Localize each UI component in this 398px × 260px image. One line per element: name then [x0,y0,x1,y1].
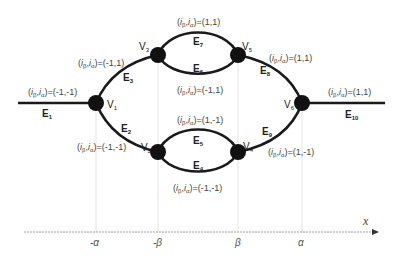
edge-label-E4: E4 [193,161,203,172]
edge-label-E7: E7 [193,37,203,48]
vertex-label-V6: V6 [284,100,294,111]
vertex-label-V3: V3 [139,42,149,53]
state-label-E9: (iβ,iα)=(1,-1) [268,148,314,158]
edge-label-E5: E5 [193,136,203,147]
edge-label-E1: E1 [42,109,52,120]
vertex-V1 [88,95,104,111]
vertex-label-V5: V5 [242,42,252,53]
tick-alpha: α [298,238,304,248]
state-label-E4: (iβ,iα)=(-1,-1) [173,184,222,194]
edge-label-E9: E9 [262,127,272,138]
x-axis-label: x [363,214,368,229]
state-label-E5: (iβ,iα)=(1,-1) [177,116,223,126]
vertex-label-V4: V4 [243,142,253,153]
state-label-E2: (iβ,iα)=(-1,-1) [77,143,126,153]
state-label-E3: (iβ,iα)=(-1,1) [78,59,124,69]
x-axis-arrow-icon [372,229,379,235]
state-label-E8: (iβ,iα)=(1,1) [269,54,312,64]
state-label-E10: (iβ,iα)=(1,1) [328,88,371,98]
edge-label-E3: E3 [123,73,133,84]
vertex-label-V1: V1 [107,100,117,111]
edge-label-E8: E8 [260,66,270,77]
edge-label-E10: E10 [345,110,358,121]
vertex-V2 [150,144,166,160]
state-label-E7: (iβ,iα)=(1,1) [177,18,220,28]
edge-label-E2: E2 [121,124,131,135]
state-label-E6: (iβ,iα)=(-1,1) [177,86,223,96]
tick-neg-beta: -β [153,238,162,248]
edges [18,33,385,172]
tick-beta: β [235,238,241,248]
tick-neg-alpha: -α [90,238,99,248]
edge-label-E6: E6 [193,64,203,75]
vertex-label-V2: V2 [141,143,151,154]
vertex-V6 [294,95,310,111]
state-label-E1: (iβ,iα)=(-1,-1) [28,88,77,98]
vertex-V3 [150,47,166,63]
